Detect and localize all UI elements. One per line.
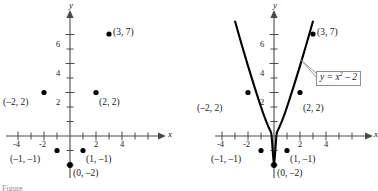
point-label-neg1-neg1: (–1, –1) <box>211 155 241 165</box>
point-label-0-neg2: (0, –2) <box>277 169 302 179</box>
y-axis-arrow-icon <box>66 10 73 18</box>
equation-lead: y = x <box>320 72 340 82</box>
figure-container: y x 6 4 2 -4 -2 2 4 (–2, 2) (–1, –1) (0,… <box>0 0 378 191</box>
y-axis-group <box>270 10 279 178</box>
chart-panel-scatter: y x 6 4 2 -4 -2 2 4 (–2, 2) (–1, –1) (0,… <box>0 0 189 191</box>
x-tick-label-4: 4 <box>120 140 124 149</box>
x-axis-group <box>215 132 373 141</box>
y-axis-group <box>66 10 75 178</box>
point-label-2-2: (2, 2) <box>303 104 324 114</box>
y-tick-label-4: 4 <box>260 69 264 78</box>
x-tick-label-2: 2 <box>298 140 302 149</box>
x-tick-label-neg4: -4 <box>217 140 224 149</box>
x-axis-label: x <box>374 130 378 139</box>
data-point <box>245 90 250 95</box>
data-point <box>54 148 59 153</box>
x-tick-label-2: 2 <box>94 140 98 149</box>
equation-callout-box: y = x2 – 2 <box>316 71 361 86</box>
data-point <box>106 31 111 36</box>
data-point <box>297 90 302 95</box>
x-tick-label-4: 4 <box>324 140 328 149</box>
y-tick-label-6: 6 <box>260 40 264 49</box>
point-label-neg2-2: (–2, 2) <box>197 104 222 114</box>
y-tick-label-2: 2 <box>260 98 264 107</box>
y-axis-arrow-icon <box>270 10 277 18</box>
x-tick-label-neg2: -2 <box>243 140 250 149</box>
data-point <box>93 90 98 95</box>
data-point <box>258 148 263 153</box>
x-axis-arrow-icon <box>158 132 166 139</box>
data-point <box>80 148 85 153</box>
callout-leader-lines <box>301 60 317 78</box>
y-tick-label-2: 2 <box>56 98 60 107</box>
x-axis-arrow-icon <box>365 132 373 139</box>
point-label-1-neg1: (1, –1) <box>290 155 315 165</box>
equation-tail: – 2 <box>343 72 357 82</box>
y-axis-label: y <box>273 1 277 10</box>
x-axis-group <box>6 132 166 141</box>
chart-panel-parabola: y x 6 4 2 -4 -2 2 4 (–2, 2) (–1, –1) (0,… <box>189 0 378 191</box>
data-point <box>284 148 289 153</box>
point-label-3-7: (3, 7) <box>317 28 338 38</box>
point-label-neg1-neg1: (–1, –1) <box>10 155 40 165</box>
x-axis-label: x <box>168 130 172 139</box>
point-label-1-neg1: (1, –1) <box>86 155 111 165</box>
y-tick-label-6: 6 <box>56 40 60 49</box>
x-tick-label-neg4: -4 <box>13 140 20 149</box>
y-tick-label-4: 4 <box>56 69 60 78</box>
point-label-2-2: (2, 2) <box>99 98 120 108</box>
data-point <box>41 90 46 95</box>
point-label-neg2-2: (–2, 2) <box>3 98 28 108</box>
data-point <box>310 31 315 36</box>
figure-caption: Figure <box>2 184 23 191</box>
point-label-3-7: (3, 7) <box>113 28 134 38</box>
y-axis-label: y <box>69 1 73 10</box>
point-label-0-neg2: (0, –2) <box>73 169 98 179</box>
x-tick-label-neg2: -2 <box>39 140 46 149</box>
